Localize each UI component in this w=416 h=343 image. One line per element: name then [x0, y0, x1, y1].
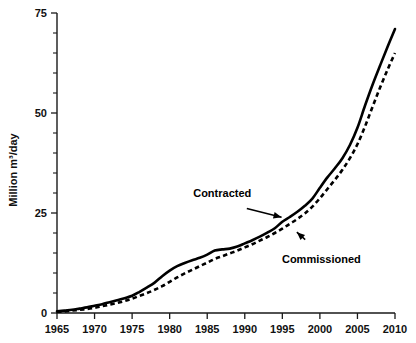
data-series-group	[57, 29, 395, 312]
x-tick-label: 1965	[45, 323, 69, 335]
x-axis-ticks	[57, 313, 395, 319]
y-tick-label: 50	[35, 107, 47, 119]
y-tick-label: 0	[41, 307, 47, 319]
chart-figure: 0255075 19651970197519801985199019952000…	[0, 0, 416, 343]
y-tick-label: 75	[35, 7, 47, 19]
series-line-commissioned	[57, 53, 395, 312]
x-tick-label: 1995	[270, 323, 294, 335]
x-tick-label: 1970	[82, 323, 106, 335]
x-tick-label: 1990	[233, 323, 257, 335]
x-tick-label: 1975	[120, 323, 144, 335]
chart-plot-area: 0255075 19651970197519801985199019952000…	[0, 0, 416, 343]
y-axis-ticks	[51, 13, 57, 313]
axis-group	[51, 13, 395, 319]
annotation-label-commissioned: Commissioned	[282, 253, 361, 265]
x-tick-label: 1985	[195, 323, 219, 335]
x-tick-label: 1980	[157, 323, 181, 335]
axis-lines	[57, 13, 395, 313]
y-tick-label: 25	[35, 207, 47, 219]
y-axis-title: Million m³/day	[7, 132, 19, 206]
series-line-contracted	[57, 29, 395, 311]
annotation-label-contracted: Contracted	[193, 187, 251, 199]
x-tick-label: 2000	[308, 323, 332, 335]
x-tick-label: 2010	[383, 323, 407, 335]
x-axis-tick-labels: 1965197019751980198519901995200020052010	[45, 323, 407, 335]
y-axis-tick-labels: 0255075	[35, 7, 47, 319]
x-tick-label: 2005	[345, 323, 369, 335]
